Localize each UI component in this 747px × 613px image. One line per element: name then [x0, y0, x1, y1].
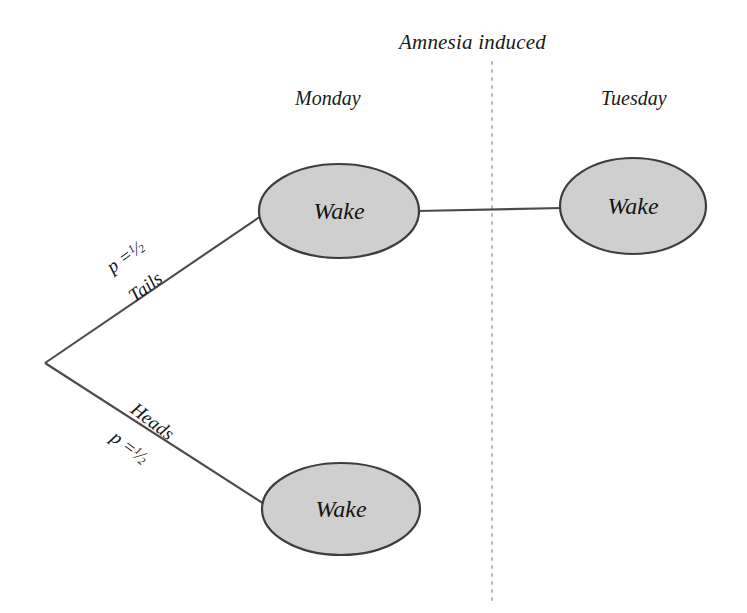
diagram-title: Amnesia induced — [399, 30, 546, 55]
branch-probability-heads: p =1⁄2 — [106, 426, 152, 468]
column-header-tuesday: Tuesday — [601, 87, 667, 110]
connector-monday-to-tuesday — [417, 208, 562, 211]
column-header-monday: Monday — [295, 87, 361, 110]
fraction-denominator: 2 — [136, 454, 148, 467]
node-label-monday-wake: Wake — [313, 198, 364, 225]
diagram-canvas: Amnesia induced Monday Tuesday Wake Wake… — [0, 0, 747, 613]
node-label-monday-wake-heads: Wake — [315, 496, 366, 523]
branch-probability-tails: p =1⁄2 — [102, 235, 148, 277]
fraction-denominator: 2 — [136, 242, 148, 255]
branch-outcome-tails: Tails — [124, 267, 166, 306]
node-label-tuesday-wake: Wake — [607, 193, 658, 220]
